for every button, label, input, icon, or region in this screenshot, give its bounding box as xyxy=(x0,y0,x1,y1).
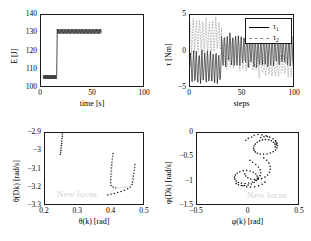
phi-xtick-0: 0 xyxy=(246,207,250,215)
phi-xaxis-title: φ(k) [rad] xyxy=(232,217,264,226)
panel-torque-vs-steps: τ1 τ2 5 0 −5 0 50 100 steps τ [Nm] xyxy=(156,0,311,118)
energy-ytick-100: 100 xyxy=(12,83,37,91)
legend-entry-tau2: τ2 xyxy=(249,33,279,43)
energy-xtick-0: 0 xyxy=(38,89,42,97)
plot-area-energy xyxy=(40,14,144,87)
legend-line-tau2 xyxy=(249,38,269,39)
legend-line-tau1 xyxy=(249,27,269,28)
panel-theta-phase-portrait: New locus −2.9 −3 −3.1 −3.2 −3.3 0.2 0.3… xyxy=(0,118,156,241)
legend-label-tau2: τ2 xyxy=(273,33,279,43)
phi-xtick-n05: −0.5 xyxy=(189,207,203,215)
theta-xtick-02: 0.2 xyxy=(39,207,48,215)
legend-label-tau1: τ1 xyxy=(273,22,279,32)
torque-ytick-5: 5 xyxy=(166,10,186,18)
theta-ytick-n32: −3.2 xyxy=(18,183,41,191)
panel-energy-vs-time: 140 130 120 110 100 0 50 100 time [s] E … xyxy=(0,0,156,118)
theta-xtick-04: 0.4 xyxy=(106,207,115,215)
torque-xtick-100: 100 xyxy=(288,89,299,97)
theta-xaxis-title: θ(k) [rad] xyxy=(79,217,110,226)
phi-ytick-n1: −1 xyxy=(170,177,193,185)
energy-ytick-140: 140 xyxy=(12,10,37,18)
energy-xtick-100: 100 xyxy=(138,89,149,97)
plot-area-torque: τ1 τ2 xyxy=(189,14,294,87)
theta-ytick-n29: −2.9 xyxy=(18,128,41,136)
plot-area-phi: New locus xyxy=(196,132,299,205)
phi-xtick-05: 0.5 xyxy=(294,207,303,215)
torque-legend: τ1 τ2 xyxy=(245,18,292,44)
theta-points-canvas xyxy=(45,133,144,205)
phi-points-canvas xyxy=(197,133,299,205)
legend-entry-tau1: τ1 xyxy=(249,22,279,32)
energy-xtick-50: 50 xyxy=(88,89,96,97)
theta-yaxis-title: θ(Dk) [rad/s] xyxy=(12,160,21,202)
energy-ytick-130: 130 xyxy=(12,28,37,36)
theta-xtick-03: 0.3 xyxy=(73,207,82,215)
theta-ytick-n33: −3.3 xyxy=(18,201,41,209)
energy-ytick-110: 110 xyxy=(12,65,37,73)
energy-series-canvas xyxy=(41,15,144,87)
theta-ytick-n30: −3 xyxy=(18,146,41,154)
torque-ytick-minus5: −5 xyxy=(164,83,186,91)
torque-xaxis-title: steps xyxy=(234,99,250,108)
plot-area-theta: New locus xyxy=(44,132,144,205)
energy-yaxis-title: E [J] xyxy=(10,49,19,64)
torque-xtick-50: 50 xyxy=(238,89,246,97)
phi-yaxis-title: φ(Dk) [rad/s] xyxy=(164,161,173,204)
energy-xaxis-title: time [s] xyxy=(80,99,105,108)
theta-xtick-05: 0.5 xyxy=(139,207,148,215)
panel-phi-phase-portrait: New locus 0 −0.5 −1 −1.5 −0.5 0 0.5 φ(k)… xyxy=(156,118,311,241)
phi-ytick-0: 0 xyxy=(170,128,193,136)
figure-canvas: 140 130 120 110 100 0 50 100 time [s] E … xyxy=(0,0,311,241)
theta-ytick-n31: −3.1 xyxy=(18,165,41,173)
torque-xtick-0: 0 xyxy=(187,89,191,97)
torque-yaxis-title: τ [Nm] xyxy=(164,43,173,66)
phi-ytick-n05: −0.5 xyxy=(170,152,193,160)
